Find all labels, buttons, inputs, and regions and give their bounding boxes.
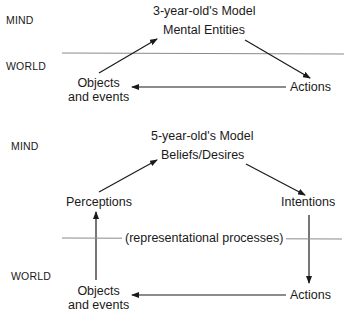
- model-title-5yo: 5-year-old's Model: [151, 129, 253, 143]
- arrow-objects-to-mental-entities: [99, 39, 157, 73]
- node-actions-3yo: Actions: [290, 80, 331, 94]
- node-beliefs-desires: Beliefs/Desires: [161, 148, 244, 162]
- mind-label-3yo: MIND: [6, 14, 34, 26]
- world-label-3yo: WORLD: [6, 60, 46, 72]
- mind-world-divider-3yo: [62, 53, 344, 54]
- mind-label-5yo: MIND: [11, 140, 39, 152]
- node-objects-line1: Objects: [68, 76, 129, 90]
- theory-of-mind-diagram: MIND WORLD 3-year-old's Model Mental Ent…: [0, 0, 348, 313]
- world-label-5yo: WORLD: [11, 270, 51, 282]
- node-intentions: Intentions: [281, 195, 335, 209]
- representational-processes-label: (representational processes): [122, 231, 286, 245]
- node-objects-line2: and events: [68, 298, 129, 312]
- model-title-3yo: 3-year-old's Model: [153, 4, 255, 18]
- node-objects-line1: Objects: [68, 284, 129, 298]
- node-actions-5yo: Actions: [290, 288, 331, 302]
- node-mental-entities: Mental Entities: [163, 23, 245, 37]
- node-objects-line2: and events: [68, 90, 129, 104]
- node-objects-and-events-5yo: Objects and events: [68, 284, 129, 313]
- arrow-beliefs-to-intentions: [246, 164, 305, 195]
- arrow-mental-entities-to-actions: [245, 40, 310, 78]
- node-perceptions: Perceptions: [66, 195, 132, 209]
- node-objects-and-events-3yo: Objects and events: [68, 76, 129, 105]
- arrow-perceptions-to-beliefs: [99, 160, 157, 192]
